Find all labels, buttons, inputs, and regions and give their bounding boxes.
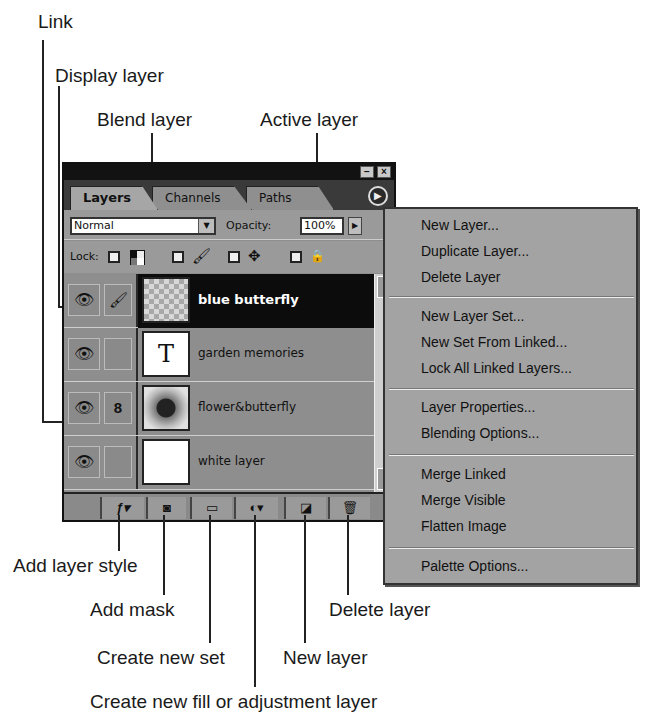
- leader-line-new-set: [209, 515, 211, 643]
- column-divider: [136, 328, 138, 381]
- layer-name: blue butterfly: [198, 292, 299, 307]
- tab-row: Paths Channels Layers ▶: [64, 180, 394, 210]
- callout-add-layer-style: Add layer style: [13, 556, 138, 575]
- tab-paths[interactable]: Paths: [246, 186, 334, 210]
- palette-titlebar[interactable]: − ×: [64, 164, 394, 180]
- lock-label: Lock:: [70, 250, 99, 263]
- layer-name: white layer: [198, 454, 265, 468]
- move-lock-icon: ✥: [248, 247, 261, 265]
- link-cell-empty[interactable]: [104, 338, 132, 370]
- menu-separator: [389, 388, 634, 390]
- callout-blend-layer: Blend layer: [97, 110, 192, 129]
- layer-row-blue-butterfly[interactable]: 👁 🖌 blue butterfly: [64, 274, 374, 328]
- blend-mode-select[interactable]: Normal ▼: [70, 217, 216, 235]
- leader-line-display: [58, 86, 60, 308]
- opacity-label: Opacity:: [226, 219, 271, 232]
- eye-icon[interactable]: 👁: [68, 338, 100, 370]
- menu-item-layer-properties[interactable]: Layer Properties...: [421, 399, 535, 415]
- lock-row: Lock: 🖌 ✥ 🔒: [64, 241, 394, 273]
- eye-icon[interactable]: 👁: [68, 446, 100, 478]
- menu-item-lock-all-linked[interactable]: Lock All Linked Layers...: [421, 360, 572, 376]
- tab-channels[interactable]: Channels: [152, 186, 252, 210]
- layers-palette: − × Paths Channels Layers ▶ Normal ▼ Opa…: [62, 162, 396, 522]
- add-mask-button[interactable]: ◙: [146, 497, 186, 519]
- menu-item-flatten-image[interactable]: Flatten Image: [421, 518, 507, 534]
- layer-name: flower&butterfly: [198, 400, 296, 414]
- lock-position-checkbox[interactable]: [228, 251, 240, 263]
- column-divider: [136, 436, 138, 489]
- palette-menu-button[interactable]: ▶: [368, 186, 388, 206]
- menu-item-delete-layer[interactable]: Delete Layer: [421, 269, 500, 285]
- brush-icon[interactable]: 🖌: [104, 284, 132, 316]
- layer-name: garden memories: [198, 346, 304, 360]
- opacity-input[interactable]: 100%: [300, 217, 344, 235]
- menu-item-blending-options[interactable]: Blending Options...: [421, 425, 539, 441]
- callout-new-layer: New layer: [283, 648, 367, 667]
- transparency-lock-icon: [130, 250, 145, 265]
- layer-list: 👁 🖌 blue butterfly 👁 T garden memories 👁…: [64, 274, 374, 492]
- text-layer-thumbnail: T: [142, 331, 190, 377]
- callout-create-fill-adjustment: Create new fill or adjustment layer: [90, 692, 377, 711]
- callout-active-layer: Active layer: [260, 110, 358, 129]
- padlock-icon: 🔒: [310, 247, 325, 265]
- palette-bottom-bar: ƒ▾ ◙ ▭ ◐▾ ◪ 🗑: [64, 492, 394, 520]
- layer-row-flower-butterfly[interactable]: 👁 8 flower&butterfly: [64, 382, 374, 436]
- menu-separator: [389, 296, 634, 298]
- close-button[interactable]: ×: [377, 166, 391, 178]
- palette-context-menu: New Layer... Duplicate Layer... Delete L…: [383, 207, 638, 585]
- menu-item-new-set-from-linked[interactable]: New Set From Linked...: [421, 334, 567, 350]
- brush-lock-icon: 🖌: [192, 247, 211, 265]
- tab-layers[interactable]: Layers: [70, 186, 158, 210]
- callout-display-layer: Display layer: [55, 66, 164, 85]
- menu-separator: [389, 454, 634, 456]
- menu-item-new-layer-set[interactable]: New Layer Set...: [421, 308, 525, 324]
- lock-all-checkbox[interactable]: [290, 251, 302, 263]
- column-divider: [136, 274, 138, 327]
- add-layer-style-button[interactable]: ƒ▾: [100, 497, 144, 519]
- blend-mode-value: Normal: [74, 219, 114, 232]
- callout-add-mask: Add mask: [90, 600, 174, 619]
- create-new-set-button[interactable]: ▭: [190, 497, 232, 519]
- create-fill-adjustment-button[interactable]: ◐▾: [234, 497, 278, 519]
- callout-link: Link: [38, 12, 73, 31]
- layer-row-white-layer[interactable]: 👁 white layer: [64, 436, 374, 490]
- leader-line-mask: [163, 515, 165, 595]
- chevron-down-icon[interactable]: ▼: [198, 219, 214, 233]
- menu-item-merge-linked[interactable]: Merge Linked: [421, 466, 506, 482]
- lock-transparency-checkbox[interactable]: [108, 251, 120, 263]
- options-row: Normal ▼ Opacity: 100% ▶: [64, 210, 394, 240]
- leader-line-layer-style: [118, 515, 120, 551]
- column-divider: [136, 382, 138, 435]
- menu-item-new-layer[interactable]: New Layer...: [421, 217, 499, 233]
- opacity-slider-button[interactable]: ▶: [348, 217, 362, 235]
- leader-line-link: [42, 40, 44, 423]
- leader-line-new-layer: [304, 515, 306, 643]
- leader-line-delete-layer: [347, 515, 349, 595]
- menu-item-duplicate-layer[interactable]: Duplicate Layer...: [421, 243, 529, 259]
- leader-line-fill-adjust: [254, 515, 256, 687]
- layer-row-garden-memories[interactable]: 👁 T garden memories: [64, 328, 374, 382]
- lock-image-checkbox[interactable]: [172, 251, 184, 263]
- eye-icon[interactable]: 👁: [68, 284, 100, 316]
- delete-layer-button[interactable]: 🗑: [328, 497, 370, 519]
- layer-thumbnail: [142, 385, 190, 431]
- layer-thumbnail: [142, 277, 190, 323]
- callout-delete-layer: Delete layer: [329, 600, 430, 619]
- link-cell-empty[interactable]: [104, 446, 132, 478]
- callout-create-new-set: Create new set: [97, 648, 225, 667]
- layer-thumbnail: [142, 439, 190, 485]
- eye-icon[interactable]: 👁: [68, 392, 100, 424]
- menu-item-merge-visible[interactable]: Merge Visible: [421, 492, 506, 508]
- chain-link-icon[interactable]: 8: [104, 392, 132, 424]
- minimize-button[interactable]: −: [360, 166, 374, 178]
- menu-item-palette-options[interactable]: Palette Options...: [421, 558, 528, 574]
- menu-separator: [389, 547, 634, 549]
